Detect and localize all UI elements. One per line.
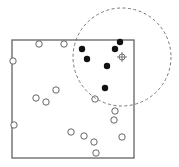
filled-point	[104, 63, 110, 69]
open-points-group	[10, 41, 125, 156]
filled-point	[117, 39, 123, 45]
query-point-crosshair-icon	[117, 52, 127, 62]
open-point	[68, 129, 74, 135]
filled-point	[102, 85, 108, 91]
filled-point	[112, 46, 118, 52]
open-point	[53, 87, 59, 93]
bounding-square	[12, 40, 134, 158]
open-point	[81, 133, 87, 139]
open-point	[43, 99, 49, 105]
open-point	[111, 117, 117, 123]
open-point	[91, 139, 97, 145]
open-point	[61, 41, 67, 47]
filled-point	[84, 56, 90, 62]
open-point	[11, 122, 17, 128]
open-point	[112, 108, 118, 114]
filled-point	[79, 46, 85, 52]
diagram-canvas	[0, 0, 179, 167]
open-point	[33, 95, 39, 101]
filled-points-group	[79, 39, 123, 91]
open-point	[10, 58, 16, 64]
open-point	[93, 150, 99, 156]
open-point	[36, 41, 42, 47]
open-point	[92, 96, 98, 102]
open-point	[119, 134, 125, 140]
